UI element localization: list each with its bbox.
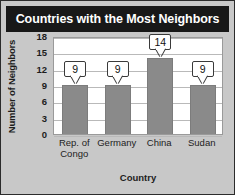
x-axis-tick-label-line: China xyxy=(138,137,181,148)
data-label-callout: 9 xyxy=(107,61,129,84)
callout-pointer-mask xyxy=(156,47,165,50)
y-axis-tick-label: 0 xyxy=(21,130,47,140)
bar[interactable] xyxy=(105,85,131,134)
bar-slot: 9 xyxy=(182,38,225,134)
x-axis-tick-label-line: Congo xyxy=(53,148,96,159)
chart-figure: Countries with the Most Neighbors Number… xyxy=(0,0,235,195)
y-axis-title: Number of Neighbors xyxy=(3,37,21,135)
x-axis-tick-label-line: Germany xyxy=(96,137,139,148)
y-axis-tick-label: 3 xyxy=(21,114,47,124)
callout-pointer-icon xyxy=(112,76,123,84)
y-axis-tick-label: 6 xyxy=(21,98,47,108)
callout-pointer-mask xyxy=(113,74,122,77)
x-axis-title: Country xyxy=(53,172,223,183)
callout-pointer-mask xyxy=(71,74,80,77)
page-title: Countries with the Most Neighbors xyxy=(16,12,220,26)
y-axis-tick-label: 9 xyxy=(21,81,47,91)
y-axis-tick-label: 12 xyxy=(21,65,47,75)
bar-slot: 9 xyxy=(54,38,97,134)
data-label-callout: 9 xyxy=(192,61,214,84)
x-axis-tick-label: Germany xyxy=(96,137,139,148)
x-axis-tick-label: Rep. ofCongo xyxy=(53,137,96,159)
callout-pointer-icon xyxy=(197,76,208,84)
y-axis-title-text: Number of Neighbors xyxy=(7,39,18,132)
x-axis-tick-label-line: Rep. of xyxy=(53,137,96,148)
bar-series: 99149 xyxy=(54,38,222,134)
plot-area: 99149 xyxy=(53,37,223,135)
x-axis-tick-labels: Rep. ofCongoGermanyChinaSudan xyxy=(53,137,223,171)
bar[interactable] xyxy=(62,85,88,134)
y-axis-tick-labels: 1815129630 xyxy=(21,37,50,135)
x-axis-tick-label: Sudan xyxy=(181,137,224,148)
callout-pointer-icon xyxy=(155,49,166,57)
bar-slot: 14 xyxy=(139,38,182,134)
bar[interactable] xyxy=(190,85,216,134)
x-axis-tick-label-line: Sudan xyxy=(181,137,224,148)
bar-slot: 9 xyxy=(97,38,140,134)
y-axis-tick-label: 18 xyxy=(21,32,47,42)
data-label-callout: 9 xyxy=(64,61,86,84)
callout-pointer-icon xyxy=(70,76,81,84)
x-axis-tick-label: China xyxy=(138,137,181,148)
y-axis-tick-label: 15 xyxy=(21,49,47,59)
chart-title-banner: Countries with the Most Neighbors xyxy=(6,6,229,32)
callout-pointer-mask xyxy=(198,74,207,77)
data-label-callout: 14 xyxy=(149,34,171,57)
bar[interactable] xyxy=(147,58,173,134)
